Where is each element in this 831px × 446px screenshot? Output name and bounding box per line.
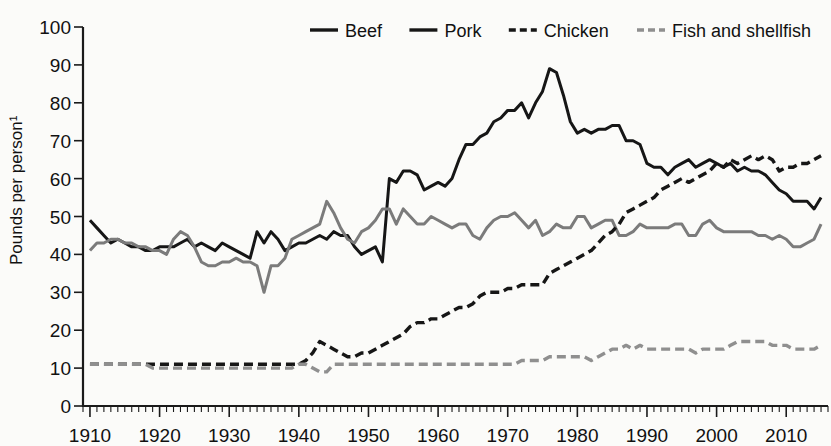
series-line-fish-and-shellfish [90, 342, 821, 372]
x-axis-tick-labels: 1910192019301940195019601970198019902000… [69, 425, 808, 446]
x-tick-label: 2010 [765, 425, 807, 446]
y-tick-label: 90 [50, 55, 71, 76]
x-tick-label: 1970 [487, 425, 529, 446]
y-tick-label: 40 [50, 244, 71, 265]
x-tick-label: 1960 [417, 425, 459, 446]
series-line-beef [90, 69, 821, 262]
series-line-pork [90, 201, 821, 292]
x-tick-label: 2000 [695, 425, 737, 446]
x-tick-label: 1940 [278, 425, 320, 446]
legend-label: Fish and shellfish [672, 21, 811, 41]
data-series-group [90, 69, 821, 372]
y-tick-label: 70 [50, 131, 71, 152]
meat-consumption-line-chart: Pounds per person¹ 010203040506070809010… [0, 0, 831, 446]
y-tick-label: 20 [50, 320, 71, 341]
x-tick-label: 1910 [69, 425, 111, 446]
axis-tick-marks [74, 27, 828, 417]
y-tick-label: 30 [50, 282, 71, 303]
legend-label: Pork [444, 21, 482, 41]
y-tick-label: 100 [39, 17, 71, 38]
y-axis-label: Pounds per person¹ [7, 115, 26, 265]
legend-label: Chicken [544, 21, 609, 41]
chart-legend: BeefPorkChickenFish and shellfish [310, 21, 811, 41]
x-tick-label: 1980 [556, 425, 598, 446]
y-tick-label: 0 [60, 396, 71, 417]
x-tick-label: 1930 [208, 425, 250, 446]
legend-label: Beef [345, 21, 383, 41]
y-tick-label: 50 [50, 207, 71, 228]
chart-container: Pounds per person¹ 010203040506070809010… [0, 0, 831, 446]
y-tick-label: 10 [50, 358, 71, 379]
x-tick-label: 1950 [347, 425, 389, 446]
y-tick-label: 60 [50, 169, 71, 190]
y-axis-tick-labels: 0102030405060708090100 [39, 17, 71, 417]
y-tick-label: 80 [50, 93, 71, 114]
x-tick-label: 1920 [138, 425, 180, 446]
x-tick-label: 1990 [626, 425, 668, 446]
